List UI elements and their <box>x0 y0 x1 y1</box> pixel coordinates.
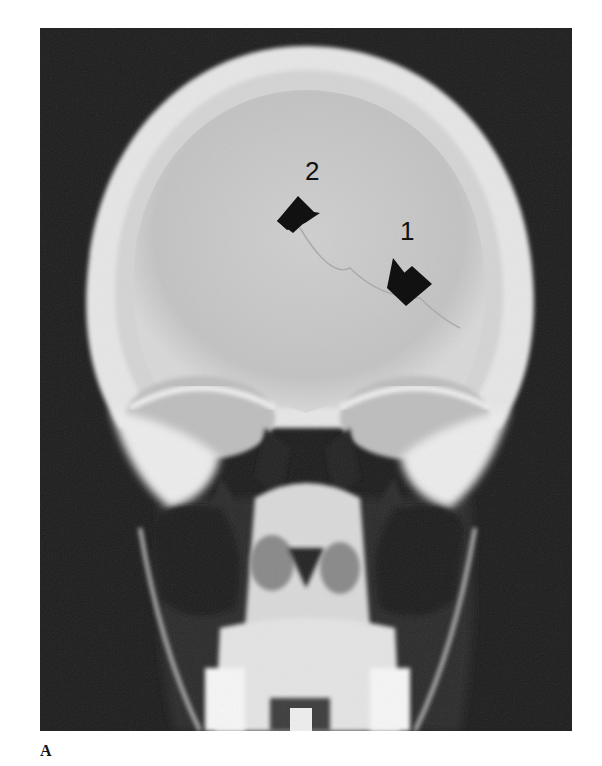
skull-radiograph: 2 1 <box>40 28 572 731</box>
annotation-label-2: 2 <box>305 158 319 184</box>
panel-label: A <box>40 742 52 760</box>
annotation-label-1: 1 <box>400 218 414 244</box>
radiograph-illustration <box>40 28 572 731</box>
